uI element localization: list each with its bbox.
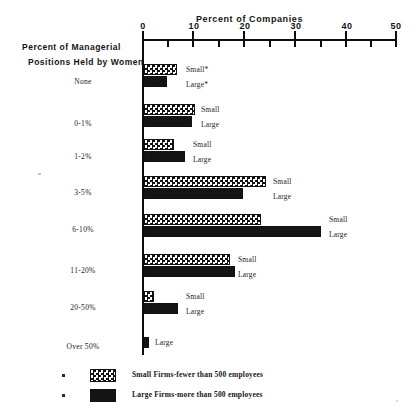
x-tick-50 [395,31,397,47]
bar-label-0-1-large: Large [201,120,219,129]
y-axis-title: Percent of Managerial Positions Held by … [22,40,152,70]
category-label-none: None [28,77,138,86]
x-tick-30 [294,31,296,47]
x-tick-20 [243,31,245,47]
x-tick-label-30: 30 [290,21,301,31]
bar-label-3-5-small: Small [273,177,292,186]
x-tick-label-0: 0 [140,21,146,31]
legend-label-small-firms: Small Firms-fewer than 500 employees [132,370,263,379]
bar-label-1-2-small: Small [193,140,212,149]
category-label-over-50: Over 50% [28,342,138,351]
bar-11-20-small [144,254,230,265]
bar-20-50-large [144,303,178,314]
scan-speck [38,173,41,175]
bar-0-1-large [144,116,192,127]
bar-label-none-large: Large* [186,80,208,89]
bar-label-11-20-large: Large [238,270,256,279]
x-minor-tick-45 [370,41,372,47]
category-label-6-10: 6-10% [28,225,138,234]
bar-1-2-large [144,151,185,162]
bar-label-20-50-small: Small [186,292,205,301]
bar-3-5-small [144,176,266,187]
legend-swatch-small-firms [90,369,116,382]
bar-label-none-small: Small* [186,65,208,74]
bar-1-2-small [144,139,174,150]
y-axis-title-line-2: Positions Held by Women [22,55,152,70]
bar-label-6-10-large: Large [329,230,347,239]
bar-6-10-small [144,214,261,225]
x-tick-label-40: 40 [341,21,352,31]
bar-20-50-small [144,291,154,302]
legend-label-large-firms: Large Firms-more than 500 employees [132,390,263,399]
y-axis-title-line-1: Percent of Managerial [22,40,152,55]
category-label-1-2: 1-2% [28,152,138,161]
bar-6-10-large [144,226,321,237]
bar-over-50-large [144,337,149,348]
x-minor-tick-35 [320,41,322,47]
bar-label-over-50-large: Large [155,338,173,347]
bar-label-6-10-small: Small [329,215,348,224]
bar-none-large [144,76,167,87]
x-tick-10 [192,31,194,47]
x-minor-tick-15 [218,41,220,47]
scan-speck [396,400,398,402]
legend-swatch-large-firms [90,389,116,402]
category-label-0-1: 0-1% [28,119,138,128]
legend-bullet-icon [62,374,65,377]
bar-11-20-large [144,266,235,277]
x-minor-tick-25 [269,41,271,47]
category-label-11-20: 11-20% [28,266,138,275]
x-tick-label-20: 20 [239,21,250,31]
x-tick-40 [345,31,347,47]
bar-label-20-50-large: Large [186,307,204,316]
chart-figure: Percent of Companies Percent of Manageri… [0,0,418,419]
x-tick-0 [142,31,144,47]
bar-label-11-20-small: Small [238,255,257,264]
bar-label-3-5-large: Large [273,192,291,201]
bar-label-1-2-large: Large [193,155,211,164]
category-label-20-50: 20-50% [28,303,138,312]
bar-0-1-small [144,104,195,115]
legend-bullet-icon [62,394,65,397]
category-label-3-5: 3-5% [28,188,138,197]
x-tick-label-50: 50 [390,21,401,31]
x-minor-tick-5 [167,41,169,47]
x-tick-label-10: 10 [188,21,199,31]
bar-3-5-large [144,188,243,199]
bar-none-small [144,64,177,75]
bar-label-0-1-small: Small [201,105,220,114]
